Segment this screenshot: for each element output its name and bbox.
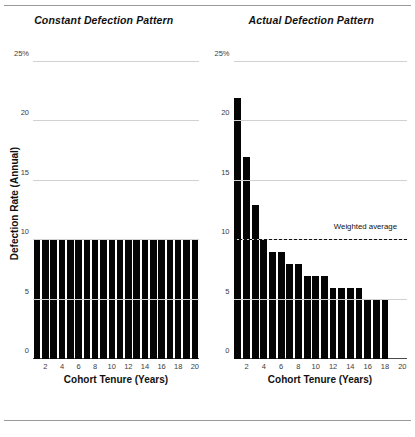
x-tick-labels-left: 2468101214161820 — [33, 362, 199, 371]
weighted-average-label: Weighted average — [334, 222, 397, 231]
x-tick-label: 2 — [41, 362, 49, 371]
x-axis-title-left: Cohort Tenure (Years) — [13, 374, 219, 385]
bar — [304, 276, 311, 359]
panel-actual-defection: Actual Defection Pattern 246810121416182… — [208, 12, 415, 412]
gridline — [33, 180, 199, 181]
x-tick-label — [66, 362, 74, 371]
bar — [234, 98, 241, 359]
y-tick-label: 15 — [21, 167, 29, 176]
bar — [382, 300, 389, 359]
x-tick-label — [268, 362, 277, 371]
x-tick-label: 8 — [294, 362, 303, 371]
gridline — [234, 61, 407, 62]
gridline — [234, 299, 407, 300]
bar — [286, 264, 293, 359]
panel-title-right: Actual Defection Pattern — [208, 14, 415, 26]
panel-constant-defection: Constant Defection Pattern Defection Rat… — [0, 12, 208, 412]
x-tick-label — [116, 362, 124, 371]
bar — [269, 252, 276, 359]
x-tick-label — [33, 362, 41, 371]
x-tick-label — [285, 362, 294, 371]
bar — [295, 264, 302, 359]
x-tick-label: 4 — [58, 362, 66, 371]
x-tick-label: 20 — [398, 362, 407, 371]
bar — [373, 300, 380, 359]
y-tick-label: 25% — [14, 49, 29, 58]
x-tick-label — [166, 362, 174, 371]
x-tick-label: 8 — [91, 362, 99, 371]
x-tick-label: 2 — [242, 362, 251, 371]
figure-frame: Constant Defection Pattern Defection Rat… — [0, 0, 415, 437]
x-tick-label — [320, 362, 329, 371]
weighted-average-line — [234, 239, 407, 240]
gridline — [234, 120, 407, 121]
y-tick-label: 20 — [221, 108, 229, 117]
gridline — [33, 299, 199, 300]
panel-title-left: Constant Defection Pattern — [0, 14, 208, 26]
chart-panels: Constant Defection Pattern Defection Rat… — [0, 12, 415, 412]
y-tick-label: 15 — [221, 167, 229, 176]
y-tick-label: 25% — [214, 49, 229, 58]
x-tick-label — [337, 362, 346, 371]
bar — [278, 252, 285, 359]
x-tick-label: 4 — [259, 362, 268, 371]
x-tick-label: 12 — [124, 362, 132, 371]
x-tick-label: 16 — [157, 362, 165, 371]
x-tick-label — [251, 362, 260, 371]
gridline — [33, 239, 199, 240]
x-tick-labels-right: 2468101214161820 — [234, 362, 407, 371]
y-axis-title: Defection Rate (Annual) — [9, 104, 20, 304]
x-tick-label: 10 — [108, 362, 116, 371]
x-tick-label — [389, 362, 398, 371]
y-tick-label: 10 — [21, 227, 29, 236]
gridline — [33, 358, 199, 359]
x-tick-label — [133, 362, 141, 371]
y-tick-label: 5 — [25, 286, 29, 295]
x-tick-label — [149, 362, 157, 371]
plot-area-right: 2468101214161820 Cohort Tenure (Years) 0… — [234, 62, 407, 359]
y-tick-label: 0 — [225, 346, 229, 355]
x-tick-label: 10 — [311, 362, 320, 371]
bar-series-right — [234, 62, 407, 359]
x-tick-label: 14 — [346, 362, 355, 371]
y-tick-label: 0 — [25, 346, 29, 355]
y-tick-label: 10 — [221, 227, 229, 236]
top-divider — [4, 5, 411, 6]
x-tick-label — [83, 362, 91, 371]
bar-series-left — [33, 62, 199, 359]
bar — [321, 276, 328, 359]
x-tick-label: 6 — [74, 362, 82, 371]
gridline — [33, 61, 199, 62]
x-tick-label — [234, 362, 243, 371]
x-tick-label: 16 — [363, 362, 372, 371]
x-tick-label — [355, 362, 364, 371]
bottom-divider — [4, 420, 411, 421]
gridline — [33, 120, 199, 121]
x-tick-label — [303, 362, 312, 371]
x-tick-label — [182, 362, 190, 371]
x-tick-label — [372, 362, 381, 371]
y-tick-label: 5 — [225, 286, 229, 295]
x-tick-label: 18 — [174, 362, 182, 371]
gridline — [234, 180, 407, 181]
x-tick-label — [50, 362, 58, 371]
x-tick-label: 14 — [141, 362, 149, 371]
x-tick-label — [99, 362, 107, 371]
x-axis-title-right: Cohort Tenure (Years) — [214, 374, 415, 385]
plot-area-left: 2468101214161820 Cohort Tenure (Years) 0… — [33, 62, 199, 359]
x-tick-label: 20 — [191, 362, 199, 371]
gridline — [234, 358, 407, 359]
y-tick-label: 20 — [21, 108, 29, 117]
bar — [252, 205, 259, 359]
bar — [312, 276, 319, 359]
bar — [364, 300, 371, 359]
x-tick-label: 12 — [329, 362, 338, 371]
x-tick-label: 6 — [277, 362, 286, 371]
x-tick-label: 18 — [381, 362, 390, 371]
bar — [243, 157, 250, 359]
